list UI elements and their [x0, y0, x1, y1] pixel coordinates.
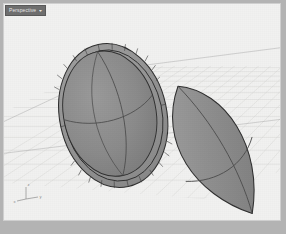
viewport-title-label[interactable]: Perspective▾ — [6, 6, 45, 15]
cad-application-window: Perspective▾ x y z — [0, 0, 286, 234]
perspective-viewport[interactable]: Perspective▾ x y z — [3, 3, 281, 221]
viewport-title-text: Perspective — [9, 7, 36, 13]
chevron-down-icon[interactable]: ▾ — [39, 8, 42, 13]
viewport-3d-scene[interactable] — [4, 4, 280, 220]
